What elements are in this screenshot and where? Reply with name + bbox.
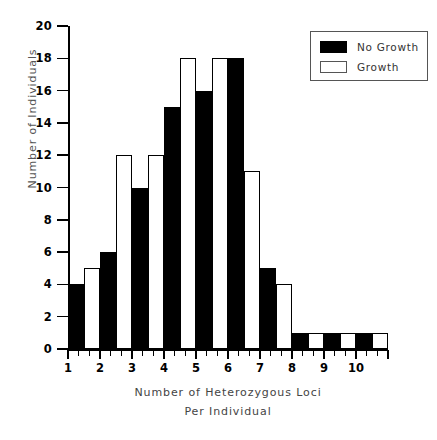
y-tick-14 bbox=[57, 122, 68, 124]
bar-no-growth-3 bbox=[132, 188, 148, 350]
x-axis-title-line1: Number of Heterozygous Loci bbox=[134, 386, 321, 399]
y-tick-6 bbox=[57, 251, 68, 253]
x-tick-minor bbox=[174, 350, 176, 356]
x-tick-10 bbox=[355, 350, 357, 359]
bar-growth-8 bbox=[308, 333, 324, 349]
x-tick-5 bbox=[195, 350, 197, 359]
bar-no-growth-8 bbox=[292, 333, 308, 349]
y-tick-10 bbox=[57, 187, 68, 189]
x-axis-title: Number of Heterozygous Loci Per Individu… bbox=[68, 383, 388, 421]
x-tick-label-5: 5 bbox=[186, 361, 206, 375]
bar-no-growth-4 bbox=[164, 107, 180, 349]
x-tick-minor bbox=[142, 350, 144, 356]
x-tick-minor bbox=[217, 350, 219, 356]
x-tick-4 bbox=[163, 350, 165, 359]
x-tick-minor bbox=[366, 350, 368, 356]
bar-growth-2 bbox=[116, 155, 132, 349]
bar-no-growth-2 bbox=[100, 252, 116, 349]
bar-growth-4 bbox=[180, 58, 196, 349]
bar-growth-9 bbox=[340, 333, 356, 349]
x-tick-7 bbox=[259, 350, 261, 359]
x-tick-minor bbox=[249, 350, 251, 356]
bar-no-growth-6 bbox=[228, 58, 244, 349]
x-tick-label-2: 2 bbox=[90, 361, 110, 375]
x-tick-minor bbox=[281, 350, 283, 356]
bar-no-growth-9 bbox=[324, 333, 340, 349]
x-tick-2 bbox=[99, 350, 101, 359]
bar-no-growth-5 bbox=[196, 91, 212, 349]
y-tick-16 bbox=[57, 90, 68, 92]
bar-no-growth-7 bbox=[260, 268, 276, 349]
legend-label-no-growth: No Growth bbox=[357, 40, 419, 54]
bar-growth-1 bbox=[84, 268, 100, 349]
chart-figure: Number of Individuals 02468101214161820 … bbox=[0, 0, 437, 440]
x-tick-label-9: 9 bbox=[314, 361, 334, 375]
y-tick-label-2: 2 bbox=[22, 310, 52, 324]
bar-growth-7 bbox=[276, 284, 292, 349]
y-tick-label-8: 8 bbox=[22, 213, 52, 227]
legend-label-growth: Growth bbox=[357, 60, 399, 74]
y-tick-label-16: 16 bbox=[22, 84, 52, 98]
y-tick-label-12: 12 bbox=[22, 148, 52, 162]
x-tick-minor bbox=[345, 350, 347, 356]
x-tick-minor bbox=[302, 350, 304, 356]
y-tick-label-14: 14 bbox=[22, 116, 52, 130]
x-tick-minor bbox=[377, 350, 379, 356]
bar-growth-10 bbox=[372, 333, 388, 349]
x-tick-label-8: 8 bbox=[282, 361, 302, 375]
x-tick-minor bbox=[153, 350, 155, 356]
x-tick-8 bbox=[291, 350, 293, 359]
y-tick-label-6: 6 bbox=[22, 245, 52, 259]
bar-no-growth-1 bbox=[68, 284, 84, 349]
x-tick-9 bbox=[323, 350, 325, 359]
x-tick-minor bbox=[270, 350, 272, 356]
x-tick-label-4: 4 bbox=[154, 361, 174, 375]
y-tick-20 bbox=[57, 25, 68, 27]
legend-swatch-growth-icon bbox=[320, 61, 347, 73]
x-tick-minor bbox=[238, 350, 240, 356]
legend-swatch-no-growth-icon bbox=[320, 41, 347, 53]
bar-no-growth-10 bbox=[356, 333, 372, 349]
y-tick-18 bbox=[57, 58, 68, 60]
x-tick-minor bbox=[121, 350, 123, 356]
x-tick-minor bbox=[334, 350, 336, 356]
x-tick-minor bbox=[313, 350, 315, 356]
x-tick-6 bbox=[227, 350, 229, 359]
x-tick-3 bbox=[131, 350, 133, 359]
x-tick-minor bbox=[110, 350, 112, 356]
bar-growth-3 bbox=[148, 155, 164, 349]
x-tick-minor bbox=[78, 350, 80, 356]
y-tick-label-10: 10 bbox=[22, 181, 52, 195]
y-tick-4 bbox=[57, 284, 68, 286]
x-tick-minor bbox=[89, 350, 91, 356]
legend: No Growth Growth bbox=[310, 31, 428, 81]
x-tick-minor bbox=[206, 350, 208, 356]
bar-growth-6 bbox=[244, 171, 260, 349]
x-tick-label-10: 10 bbox=[346, 361, 366, 375]
x-tick-label-1: 1 bbox=[58, 361, 78, 375]
x-tick-label-7: 7 bbox=[250, 361, 270, 375]
y-tick-2 bbox=[57, 316, 68, 318]
y-tick-label-0: 0 bbox=[22, 342, 52, 356]
x-tick-1 bbox=[67, 350, 69, 359]
x-tick-label-3: 3 bbox=[122, 361, 142, 375]
x-tick-end bbox=[387, 350, 389, 359]
y-tick-label-18: 18 bbox=[22, 51, 52, 65]
y-tick-label-20: 20 bbox=[22, 19, 52, 33]
y-tick-12 bbox=[57, 154, 68, 156]
x-tick-label-6: 6 bbox=[218, 361, 238, 375]
y-tick-label-4: 4 bbox=[22, 277, 52, 291]
x-tick-minor bbox=[185, 350, 187, 356]
bar-growth-5 bbox=[212, 58, 228, 349]
x-axis-title-line2: Per Individual bbox=[68, 402, 388, 421]
y-tick-8 bbox=[57, 219, 68, 221]
